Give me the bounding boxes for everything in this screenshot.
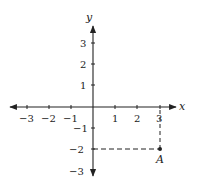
y-tick-label: −1 — [73, 123, 88, 134]
y-tick-label: 1 — [80, 80, 86, 91]
x-tick-label: −3 — [19, 113, 34, 124]
y-axis-label: y — [85, 11, 93, 24]
y-tick-label: 3 — [80, 38, 86, 49]
y-tick-label: −2 — [69, 144, 84, 155]
coordinate-plane: x y −3 −2 −1 1 2 3 3 2 1 −1 −2 −3 A — [0, 0, 200, 192]
x-tick-label: −2 — [41, 113, 56, 124]
point-a-label: A — [155, 153, 164, 166]
y-tick-label: 2 — [80, 59, 86, 70]
x-tick-label: 3 — [156, 113, 162, 124]
x-tick-label: 2 — [134, 113, 140, 124]
y-tick-label: −3 — [69, 166, 84, 177]
x-tick-label: 1 — [112, 113, 118, 124]
point-a — [158, 147, 162, 151]
x-axis-label: x — [179, 100, 186, 113]
